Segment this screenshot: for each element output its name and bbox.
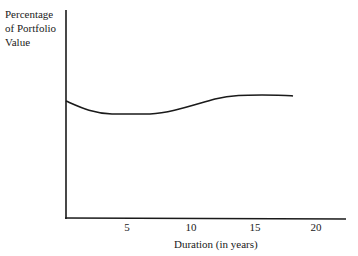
x-axis bbox=[65, 218, 346, 219]
x-tick-5: 5 bbox=[124, 221, 130, 233]
x-tick-20: 20 bbox=[311, 221, 322, 233]
portfolio-curve bbox=[66, 95, 293, 114]
x-tick-10: 10 bbox=[186, 221, 197, 233]
x-tick-15: 15 bbox=[250, 221, 261, 233]
x-axis-label: Duration (in years) bbox=[174, 238, 258, 250]
chart-plot bbox=[0, 0, 358, 256]
